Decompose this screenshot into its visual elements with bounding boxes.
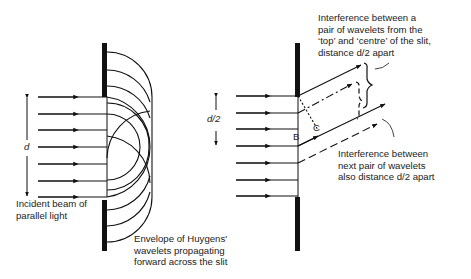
incident-beam-caption: Incident beam of parallel light xyxy=(16,198,87,221)
d-label: d xyxy=(24,141,29,153)
left-incident-rays xyxy=(38,97,107,197)
right-incident-rays xyxy=(236,96,298,196)
huygens-wavelets xyxy=(107,52,152,242)
d-half-label: d/2 xyxy=(207,113,220,125)
envelope-caption: Envelope of Huygens' wavelets propagatin… xyxy=(134,233,227,268)
point-b-label: B xyxy=(293,131,299,143)
right-slit-barrier xyxy=(295,43,300,251)
top-pair-caption: Interference between a pair of wavelets … xyxy=(318,12,431,58)
next-pair-caption: Interference between next pair of wavele… xyxy=(338,148,435,183)
point-c-label: C xyxy=(313,122,320,134)
path-difference-braces xyxy=(356,63,394,137)
